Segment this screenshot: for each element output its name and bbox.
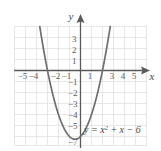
- equation-label: y = x2 + x − 6: [83, 124, 141, 136]
- y-tick-label--2: −2: [68, 88, 78, 98]
- y-tick-label--5: −5: [68, 121, 78, 131]
- x-tick-label-1: 1: [88, 71, 93, 81]
- y-tick-label-3: 3: [72, 34, 77, 44]
- svg-text:y = x2 + x − 6: y = x2 + x − 6: [83, 124, 141, 136]
- x-axis-label: x: [149, 70, 155, 82]
- y-tick-label-1: 1: [72, 56, 77, 66]
- y-tick-label-2: 2: [72, 45, 77, 55]
- x-tick-label--2: −2: [51, 71, 61, 81]
- x-tick-label-5: 5: [132, 71, 137, 81]
- y-tick-label--7: −7: [68, 137, 78, 147]
- y-axis-label: y: [68, 10, 74, 22]
- y-tick-label--3: −3: [68, 99, 78, 109]
- equation-label-tail: + x − 6: [108, 124, 141, 135]
- y-tick-label--4: −4: [68, 110, 78, 120]
- x-tick-label-4: 4: [121, 71, 126, 81]
- parabola-graph-svg: −5 −4 −2 −1 1 3 4 5 3 2 1 −1 −2 −3 −4 −5…: [0, 0, 161, 151]
- x-tick-label--5: −5: [18, 71, 28, 81]
- x-tick-label--4: −4: [29, 71, 39, 81]
- graph-figure: −5 −4 −2 −1 1 3 4 5 3 2 1 −1 −2 −3 −4 −5…: [0, 0, 161, 151]
- x-tick-label-3: 3: [110, 71, 115, 81]
- y-tick-label--1: −1: [68, 77, 78, 87]
- equation-label-head: y = x: [83, 124, 105, 135]
